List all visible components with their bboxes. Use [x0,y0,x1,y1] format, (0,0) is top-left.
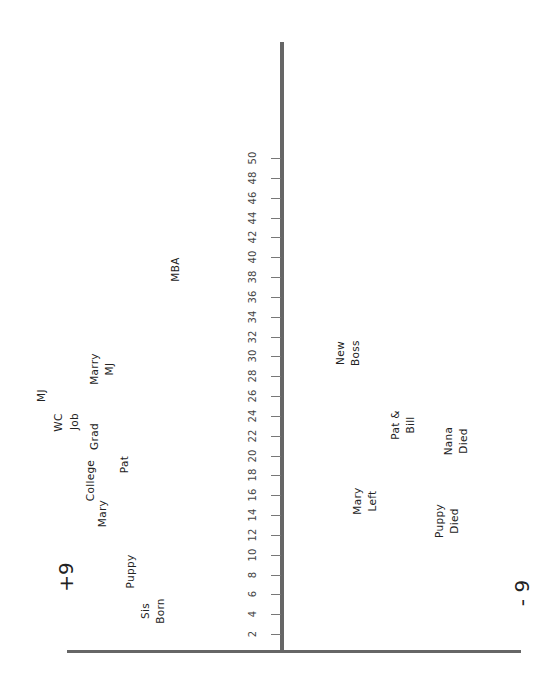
tick-label: 40 [248,247,258,267]
tick-mark [271,555,281,556]
tick-label: 24 [248,406,258,426]
tick-label: 14 [248,505,258,525]
tick-mark [271,614,281,615]
tick-label: 36 [248,287,258,307]
tick-mark [271,257,281,258]
tick-mark [271,515,281,516]
tick-label: 50 [248,148,258,168]
tick-mark [271,456,281,457]
event-mj: MJ [34,384,49,408]
tick-mark [271,198,281,199]
tick-mark [271,475,281,476]
tick-label: 42 [248,227,258,247]
tick-mark [271,634,281,635]
event-puppy: Puppy [123,547,138,597]
tick-label: 4 [248,604,258,624]
tick-label: 38 [248,267,258,287]
tick-mark [271,277,281,278]
event-puppy-died: Puppy Died [432,498,462,544]
life-events-chart: 2468101214161820222426283032343638404244… [0,0,554,694]
tick-mark [271,337,281,338]
event-grad: Grad [87,419,102,455]
tick-label: 20 [248,446,258,466]
event-new-boss: New Boss [333,333,363,373]
tick-label: 12 [248,525,258,545]
tick-label: 46 [248,188,258,208]
tick-mark [271,297,281,298]
tick-mark [271,178,281,179]
tick-label: 16 [248,485,258,505]
tick-label: 34 [248,307,258,327]
tick-label: 48 [248,168,258,188]
tick-label: 44 [248,208,258,228]
tick-mark [271,317,281,318]
tick-label: 6 [248,584,258,604]
event-college: College [83,453,98,509]
tick-label: 30 [248,346,258,366]
tick-label: 8 [248,565,258,585]
event-pat-bill: Pat & Bill [388,403,418,447]
tick-mark [271,376,281,377]
tick-mark [271,158,281,159]
tick-mark [271,356,281,357]
event-sis-born: Sis Born [138,586,168,636]
tick-label: 32 [248,327,258,347]
event-mary-left: Mary Left [350,481,380,521]
tick-label: 2 [248,624,258,644]
tick-label: 26 [248,386,258,406]
age-axis-line [280,42,284,653]
negative-pole-label: - 9 [512,573,532,613]
event-pat: Pat [117,450,132,480]
positive-pole-label: +9 [56,557,76,597]
tick-mark [271,535,281,536]
event-mba: MBA [168,252,183,288]
event-nana-died: Nana Died [441,421,471,461]
tick-mark [271,237,281,238]
event-marry-mj: Marry MJ [87,347,117,391]
tick-label: 28 [248,366,258,386]
tick-mark [271,495,281,496]
tick-mark [271,575,281,576]
baseline-axis-line [67,650,521,653]
tick-label: 22 [248,426,258,446]
tick-label: 10 [248,545,258,565]
tick-label: 18 [248,465,258,485]
tick-mark [271,218,281,219]
event-job: Job [67,407,82,437]
tick-mark [271,594,281,595]
tick-mark [271,416,281,417]
tick-mark [271,396,281,397]
event-wc: WC [51,410,66,436]
tick-mark [271,436,281,437]
